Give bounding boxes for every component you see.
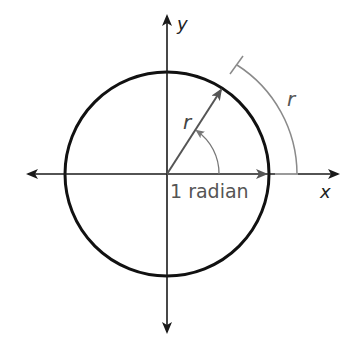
radian-diagram: y x r r 1 radian — [0, 0, 345, 355]
arc-length-label: r — [287, 87, 297, 111]
angle-arc — [197, 131, 219, 174]
radius-arrow-angled — [167, 90, 221, 174]
y-axis-label: y — [176, 13, 188, 34]
angle-label: 1 radian — [170, 180, 249, 202]
arc-length-tick — [230, 56, 243, 74]
x-axis-label: x — [319, 181, 331, 202]
radius-label: r — [183, 110, 193, 134]
